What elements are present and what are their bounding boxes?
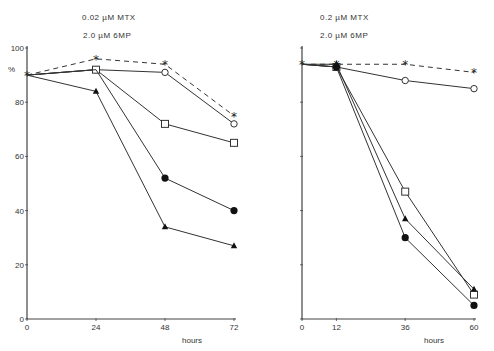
- left-y-tick-label: 100: [11, 44, 25, 53]
- left-x-tick-label: 48: [161, 323, 170, 332]
- left-x-axis-label: hours: [182, 336, 202, 345]
- open-circle-marker: [231, 121, 237, 127]
- left-annotation-mtx: 0.02 µM MTX: [82, 13, 136, 22]
- right-annotation-mtx: 0.2 µM MTX: [320, 13, 369, 22]
- left-series-line: [27, 59, 234, 116]
- left-y-tick-label: 40: [15, 207, 24, 216]
- open-circle-marker: [162, 69, 168, 75]
- right-series-line: [302, 64, 474, 72]
- left-x-tick-label: 0: [25, 323, 30, 332]
- asterisk-marker: *: [93, 53, 99, 67]
- right-x-tick-label: 0: [300, 323, 305, 332]
- right-series-line: [302, 64, 474, 88]
- filled-circle-marker: [470, 302, 477, 309]
- open-square-marker: [162, 120, 169, 127]
- open-circle-marker: [471, 85, 477, 91]
- open-square-marker: [231, 139, 238, 146]
- right-annotation-6mp: 2.0 µM 6MP: [320, 31, 368, 40]
- right-x-tick-label: 60: [470, 323, 479, 332]
- asterisk-marker: *: [402, 58, 408, 72]
- plot-layer: 0204060801000244872****0123660****: [11, 44, 479, 332]
- left-y-tick-label: 80: [15, 98, 24, 107]
- chart-canvas: 0.02 µM MTX 2.0 µM 6MP % hours 0.2 µM MT…: [0, 0, 494, 351]
- filled-triangle-marker: [162, 223, 168, 229]
- left-annotation-6mp: 2.0 µM 6MP: [83, 31, 131, 40]
- left-x-tick-label: 72: [230, 323, 239, 332]
- right-x-tick-label: 12: [332, 323, 341, 332]
- left-series-line: [27, 70, 234, 143]
- asterisk-marker: *: [299, 58, 305, 72]
- left-y-tick-label: 20: [15, 261, 24, 270]
- left-x-tick-label: 24: [92, 323, 101, 332]
- filled-circle-marker: [402, 234, 409, 241]
- right-series-line: [302, 64, 474, 305]
- filled-circle-marker: [230, 207, 237, 214]
- filled-triangle-marker: [402, 215, 408, 221]
- right-x-axis-label: hours: [424, 336, 444, 345]
- filled-circle-marker: [333, 63, 340, 70]
- open-circle-marker: [402, 77, 408, 83]
- filled-circle-marker: [161, 174, 168, 181]
- left-y-tick-label: 60: [15, 152, 24, 161]
- left-y-axis-label: %: [8, 65, 15, 74]
- open-square-marker: [402, 188, 409, 195]
- right-x-tick-label: 36: [401, 323, 410, 332]
- asterisk-marker: *: [471, 66, 477, 80]
- left-series-line: [27, 70, 234, 211]
- open-square-marker: [471, 291, 478, 298]
